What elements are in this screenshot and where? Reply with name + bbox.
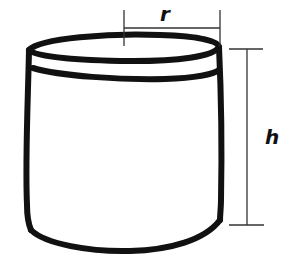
cylinder-rim-line: [33, 68, 219, 79]
cylinder-diagram: [0, 0, 301, 273]
cylinder-left-side: [26, 50, 31, 230]
radius-label: r: [160, 2, 170, 26]
cylinder-bottom-curve: [31, 220, 220, 251]
height-label: h: [265, 125, 279, 149]
cylinder-right-side: [219, 47, 221, 220]
